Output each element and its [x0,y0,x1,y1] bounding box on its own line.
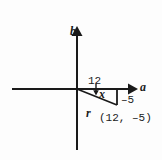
hypotenuse-label: r [86,107,91,119]
coordinate-diagram: b a 12 x –5 r (12, –5) [0,0,162,160]
point-coordinates-label: (12, –5) [99,113,152,124]
diagram-canvas [0,0,162,160]
adjacent-length-label: 12 [88,76,101,87]
vertical-axis-label: b [70,25,76,37]
angle-label: x [99,88,105,100]
opposite-length-label: –5 [121,95,134,106]
angle-pointer-arrowhead [93,90,99,95]
horizontal-axis-arrowhead [128,84,138,95]
horizontal-axis-label: a [140,81,146,93]
